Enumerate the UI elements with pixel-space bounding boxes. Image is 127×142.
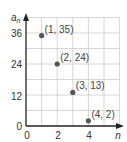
x-tick-2: 2: [55, 130, 61, 141]
x-axis-label: n: [115, 130, 121, 141]
scatter-chart: 0 12 24 36 0 2 4 n an (1, 35)(2, 24)(3, …: [0, 0, 127, 142]
data-point: [55, 61, 60, 66]
point-label: (3, 13): [76, 80, 105, 91]
data-point: [39, 33, 44, 38]
y-axis-label: an: [11, 12, 21, 24]
y-axis-arrow-icon: [23, 13, 29, 21]
y-tick-36: 36: [11, 28, 23, 39]
x-tick-0: 0: [24, 130, 30, 141]
x-tick-4: 4: [86, 130, 92, 141]
data-point: [86, 118, 91, 123]
data-points: (1, 35)(2, 24)(3, 13)(4, 2): [39, 24, 115, 124]
point-label: (1, 35): [45, 24, 74, 35]
y-tick-0: 0: [16, 121, 22, 132]
y-tick-12: 12: [11, 91, 23, 102]
point-label: (2, 24): [60, 52, 89, 63]
y-tick-24: 24: [11, 59, 23, 70]
point-label: (4, 2): [91, 109, 114, 120]
data-point: [70, 90, 75, 95]
